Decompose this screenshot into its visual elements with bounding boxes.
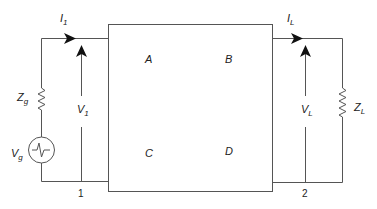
output-bottom-wire <box>272 117 343 183</box>
port-2-label: 2 <box>302 189 308 199</box>
param-c-label: C <box>145 148 153 159</box>
il-label: IL <box>287 13 295 27</box>
param-d-label: D <box>225 146 233 157</box>
output-top-wire <box>272 39 343 89</box>
zl-label: ZL <box>354 102 365 116</box>
param-b-label: B <box>225 54 232 65</box>
param-a-label: A <box>145 54 152 65</box>
source-waveform-icon <box>32 143 50 157</box>
two-port-box <box>109 25 273 192</box>
vl-label: VL <box>301 104 313 118</box>
load-impedance-resistor <box>339 88 346 117</box>
v1-label: V1 <box>77 104 89 118</box>
input-bottom-wire <box>42 163 109 182</box>
source-impedance-resistor <box>38 88 45 110</box>
zg-label: Zg <box>17 92 28 106</box>
i1-label: I1 <box>60 13 68 27</box>
vg-label: Vg <box>11 148 23 162</box>
circuit-diagram <box>0 0 377 209</box>
input-top-wire <box>42 39 109 89</box>
port-1-label: 1 <box>78 189 84 199</box>
